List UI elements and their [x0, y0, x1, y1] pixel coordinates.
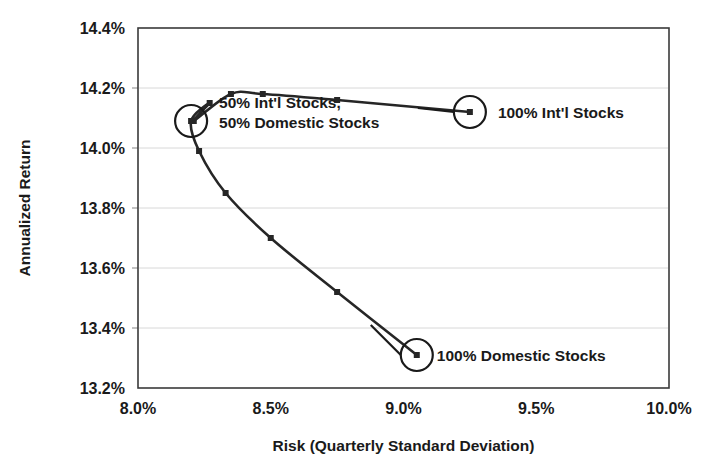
x-axis-tick-label: 9.0%: [385, 400, 421, 417]
annotation-label: 100% Int'l Stocks: [498, 104, 624, 121]
data-point-marker: [268, 235, 274, 241]
x-axis-tick-label: 10.0%: [646, 400, 691, 417]
chart-background: [0, 0, 723, 473]
y-axis-tick-label: 13.2%: [80, 380, 125, 397]
data-point-marker: [334, 289, 340, 295]
chart-container: 100% Int'l Stocks50% Int'l Stocks,50% Do…: [0, 0, 723, 473]
y-axis-tick-label: 14.2%: [80, 80, 125, 97]
x-axis-tick-label: 8.5%: [253, 400, 289, 417]
efficient-frontier-chart: 100% Int'l Stocks50% Int'l Stocks,50% Do…: [0, 0, 723, 473]
y-axis-tick-label: 13.4%: [80, 320, 125, 337]
annotation-label: 50% Domestic Stocks: [219, 114, 379, 131]
annotation-label: 100% Domestic Stocks: [437, 347, 606, 364]
y-axis-tick-label: 14.4%: [80, 20, 125, 37]
data-point-marker: [467, 109, 473, 115]
data-point-marker: [414, 352, 420, 358]
data-point-marker: [223, 190, 229, 196]
y-axis-tick-label: 13.6%: [80, 260, 125, 277]
y-axis-tick-label: 13.8%: [80, 200, 125, 217]
x-axis-tick-label: 9.5%: [518, 400, 554, 417]
x-axis-title: Risk (Quarterly Standard Deviation): [273, 437, 535, 454]
y-axis-tick-label: 14.0%: [80, 140, 125, 157]
annotation-label: 50% Int'l Stocks,: [219, 94, 341, 111]
data-point-marker: [188, 118, 194, 124]
x-axis-tick-label: 8.0%: [120, 400, 156, 417]
data-point-marker: [207, 100, 213, 106]
y-axis-title: Annualized Return: [16, 140, 33, 277]
data-point-marker: [196, 148, 202, 154]
